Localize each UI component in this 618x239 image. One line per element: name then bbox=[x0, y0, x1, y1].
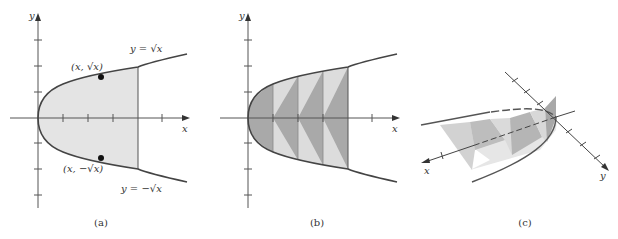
y-axis-label: y bbox=[28, 10, 35, 21]
x-axis-label: x bbox=[392, 123, 398, 134]
x-axis-arrow-icon bbox=[392, 115, 400, 121]
panel-a: y x y = √x y = −√x (x, √x) (x, −√x) (a) bbox=[0, 0, 205, 239]
y-axis-label: y bbox=[238, 10, 245, 21]
solid-cross-sections bbox=[440, 96, 557, 170]
panel-b: y x (b) bbox=[205, 0, 410, 239]
y-axis-arrow-icon bbox=[245, 13, 251, 21]
curve-lower-label: y = −√x bbox=[120, 183, 162, 194]
point-lower-label: (x, −√x) bbox=[63, 163, 103, 174]
caption-a: (a) bbox=[94, 217, 108, 228]
caption-b: (b) bbox=[310, 217, 324, 228]
point-upper-label: (x, √x) bbox=[71, 61, 103, 72]
x-axis-arrow-icon bbox=[182, 115, 190, 121]
caption-c: (c) bbox=[518, 217, 532, 228]
panel-c: x y (c) bbox=[410, 0, 618, 239]
y-axis-label: y bbox=[599, 170, 606, 181]
curve-upper-label: y = √x bbox=[129, 43, 163, 54]
x-axis-label: x bbox=[424, 165, 430, 176]
x-axis-back bbox=[556, 111, 575, 117]
x-axis-arrow-icon bbox=[421, 158, 430, 163]
y-axis-arrow-icon bbox=[35, 13, 41, 21]
point-upper bbox=[98, 74, 104, 80]
x-axis-label: x bbox=[182, 123, 188, 134]
point-lower bbox=[98, 155, 104, 161]
